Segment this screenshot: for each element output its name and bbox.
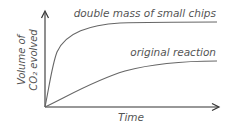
label-original-reaction: original reaction [130, 46, 216, 58]
label-double-mass: double mass of small chips [74, 7, 217, 19]
y-axis-label-line-1: Volume of [16, 33, 27, 85]
y-axis-label: Volume of CO₂ evolved [16, 29, 39, 91]
x-axis-label: Time [118, 111, 144, 123]
chart-svg: double mass of small chips original reac… [0, 0, 233, 126]
y-axis-label-line-2: CO₂ evolved [28, 29, 39, 91]
co2-volume-time-chart: double mass of small chips original reac… [0, 0, 233, 126]
curve-original-reaction [45, 61, 217, 107]
